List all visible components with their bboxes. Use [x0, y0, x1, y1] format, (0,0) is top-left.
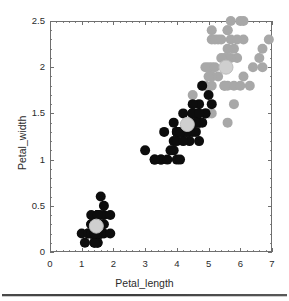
- y-axis-minor-tick: [270, 169, 272, 170]
- y-axis-minor-tick: [50, 86, 52, 87]
- y-axis-minor-tick: [270, 141, 272, 142]
- x-axis-minor-tick: [266, 250, 267, 252]
- y-axis-tick: [268, 206, 272, 207]
- x-axis-minor-tick: [107, 21, 108, 23]
- x-axis-minor-tick: [75, 250, 76, 252]
- y-axis-tick: [268, 113, 272, 114]
- x-axis-minor-tick: [75, 21, 76, 23]
- x-axis-tick: [82, 248, 83, 252]
- y-axis-title: Petal_width: [16, 116, 28, 170]
- x-axis-minor-tick: [196, 250, 197, 252]
- x-axis-minor-tick: [234, 250, 235, 252]
- x-axis-minor-tick: [101, 21, 102, 23]
- y-axis-minor-tick: [50, 123, 52, 124]
- x-axis-tick-label: 4: [162, 259, 192, 269]
- y-axis-tick: [268, 252, 272, 253]
- x-axis-minor-tick: [126, 250, 127, 252]
- x-axis-minor-tick: [88, 250, 89, 252]
- scatter-plot-figure: 0123456700.511.522.5 Petal_width Petal_l…: [0, 0, 289, 301]
- x-axis-minor-tick: [120, 250, 121, 252]
- x-axis-tick: [272, 21, 273, 25]
- x-axis-minor-tick: [183, 250, 184, 252]
- x-axis-minor-tick: [171, 250, 172, 252]
- x-axis-tick: [113, 21, 114, 25]
- x-axis-minor-tick: [202, 250, 203, 252]
- y-axis-minor-tick: [50, 104, 52, 105]
- x-axis-minor-tick: [158, 250, 159, 252]
- y-axis-minor-tick: [270, 49, 272, 50]
- y-axis-minor-tick: [270, 243, 272, 244]
- y-axis-minor-tick: [50, 132, 52, 133]
- y-axis-minor-tick: [270, 150, 272, 151]
- y-axis-minor-tick: [270, 76, 272, 77]
- y-axis-minor-tick: [270, 95, 272, 96]
- x-axis-minor-tick: [253, 250, 254, 252]
- y-axis-minor-tick: [270, 215, 272, 216]
- y-axis-minor-tick: [270, 104, 272, 105]
- x-axis-tick-label: 2: [98, 259, 128, 269]
- y-axis-tick: [50, 21, 54, 22]
- x-axis-minor-tick: [171, 21, 172, 23]
- y-axis-tick-label: 2: [8, 62, 45, 72]
- x-axis-minor-tick: [94, 250, 95, 252]
- y-axis-tick: [50, 113, 54, 114]
- x-axis-minor-tick: [139, 250, 140, 252]
- y-axis-minor-tick: [270, 197, 272, 198]
- y-axis-tick: [50, 206, 54, 207]
- x-axis-tick-label: 3: [130, 259, 160, 269]
- x-axis-minor-tick: [247, 21, 248, 23]
- y-axis-tick: [268, 67, 272, 68]
- x-axis-minor-tick: [221, 250, 222, 252]
- x-axis-tick-label: 6: [225, 259, 255, 269]
- x-axis-tick: [82, 21, 83, 25]
- y-axis-minor-tick: [50, 30, 52, 31]
- x-axis-minor-tick: [132, 21, 133, 23]
- y-axis-minor-tick: [50, 243, 52, 244]
- y-axis-minor-tick: [270, 86, 272, 87]
- y-axis-tick: [268, 21, 272, 22]
- x-axis-title: Petal_length: [0, 277, 289, 289]
- x-axis-minor-tick: [190, 21, 191, 23]
- x-axis-minor-tick: [63, 250, 64, 252]
- y-axis-minor-tick: [50, 224, 52, 225]
- x-axis-minor-tick: [158, 21, 159, 23]
- x-axis-minor-tick: [190, 250, 191, 252]
- y-axis-tick: [50, 67, 54, 68]
- y-axis-minor-tick: [50, 49, 52, 50]
- x-axis-tick: [177, 248, 178, 252]
- x-axis-minor-tick: [132, 250, 133, 252]
- y-axis-minor-tick: [270, 39, 272, 40]
- x-axis-minor-tick: [139, 21, 140, 23]
- x-axis-tick: [272, 248, 273, 252]
- x-axis-minor-tick: [56, 21, 57, 23]
- x-axis-minor-tick: [94, 21, 95, 23]
- x-axis-tick: [240, 248, 241, 252]
- x-axis-minor-tick: [247, 250, 248, 252]
- x-axis-minor-tick: [259, 21, 260, 23]
- x-axis-minor-tick: [215, 21, 216, 23]
- x-axis-tick-label: 5: [194, 259, 224, 269]
- y-axis-minor-tick: [50, 150, 52, 151]
- x-axis-minor-tick: [266, 21, 267, 23]
- x-axis-minor-tick: [228, 250, 229, 252]
- x-axis-minor-tick: [107, 250, 108, 252]
- x-axis-tick: [113, 248, 114, 252]
- y-axis-minor-tick: [50, 215, 52, 216]
- x-axis-tick: [209, 21, 210, 25]
- y-axis-tick-label: 0: [8, 247, 45, 257]
- y-axis-tick: [50, 252, 54, 253]
- x-axis-minor-tick: [151, 250, 152, 252]
- x-axis-minor-tick: [63, 21, 64, 23]
- x-axis-minor-tick: [259, 250, 260, 252]
- y-axis-minor-tick: [50, 197, 52, 198]
- x-axis-minor-tick: [202, 21, 203, 23]
- x-axis-minor-tick: [215, 250, 216, 252]
- x-axis-minor-tick: [69, 250, 70, 252]
- y-axis-minor-tick: [50, 58, 52, 59]
- x-axis-tick: [240, 21, 241, 25]
- y-axis-minor-tick: [270, 123, 272, 124]
- x-axis-minor-tick: [126, 21, 127, 23]
- y-axis-minor-tick: [50, 39, 52, 40]
- y-axis-minor-tick: [50, 187, 52, 188]
- x-axis-minor-tick: [164, 250, 165, 252]
